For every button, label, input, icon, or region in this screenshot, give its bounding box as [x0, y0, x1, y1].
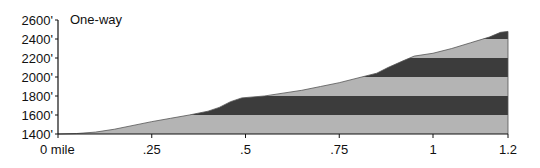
- elevation-band: [58, 39, 508, 58]
- elevation-band: [58, 58, 508, 77]
- chart-caption: One-way: [70, 12, 123, 27]
- y-tick-label: 1800': [22, 89, 53, 104]
- x-tick-label: .25: [143, 142, 161, 157]
- elevation-band: [58, 115, 508, 134]
- x-tick-label: 1: [429, 142, 436, 157]
- x-tick-label: .5: [240, 142, 251, 157]
- elevation-bands: [58, 20, 508, 134]
- x-tick-label: 1.2: [499, 142, 517, 157]
- elevation-band: [58, 20, 508, 39]
- elevation-band: [58, 96, 508, 115]
- x-tick-label: .75: [330, 142, 348, 157]
- y-tick-label: 2400': [22, 32, 53, 47]
- y-tick-label: 1600': [22, 108, 53, 123]
- y-tick-label: 2000': [22, 70, 53, 85]
- y-tick-label: 2600': [22, 13, 53, 28]
- y-tick-label: 1400': [22, 127, 53, 142]
- x-tick-label: 0 mile: [40, 142, 75, 157]
- y-tick-label: 2200': [22, 51, 53, 66]
- elevation-profile-chart: 1400'1600'1800'2000'2200'2400'2600'0 mil…: [0, 0, 540, 168]
